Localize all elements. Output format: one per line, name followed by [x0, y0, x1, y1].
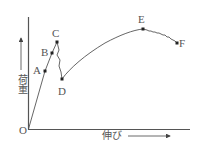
curve-yield [57, 42, 62, 79]
curve-hardening [62, 29, 143, 79]
load-elongation-chart [0, 0, 200, 153]
point-b [51, 52, 54, 55]
point-a-label: A [33, 65, 41, 76]
point-d [61, 78, 64, 81]
x-axis-label: 伸び [102, 130, 122, 142]
point-e [142, 28, 145, 31]
y-axis-label: 荷重 [14, 74, 27, 94]
point-e-label: E [138, 14, 145, 25]
curve-necking [143, 29, 177, 43]
point-c-label: C [52, 28, 59, 39]
point-b-label: B [41, 47, 48, 58]
point-a [44, 70, 47, 73]
origin-label: O [19, 125, 27, 136]
point-d-label: D [58, 86, 66, 97]
point-c [56, 41, 59, 44]
point-f-label: F [179, 38, 185, 49]
